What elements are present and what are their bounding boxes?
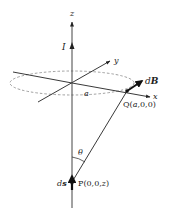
y-axis: [38, 61, 110, 102]
pq-line: [72, 91, 127, 182]
y-axis-label: y: [113, 56, 119, 65]
theta-label: θ: [78, 148, 83, 157]
point-q-label: Q(a,0,0): [123, 100, 156, 109]
theta-arc: [72, 157, 85, 162]
biot-savart-diagram: z I y x a dB Q(a,0,0) θ ds P(0,0,z): [0, 0, 173, 217]
z-axis-label: z: [69, 9, 75, 18]
point-p-dot: [70, 181, 73, 184]
point-p-label: P(0,0,z): [78, 179, 109, 188]
current-arrow-icon: [70, 42, 75, 49]
x-axis-back: [13, 72, 72, 83]
db-label: dB: [145, 76, 159, 86]
radius-label: a: [84, 89, 89, 98]
current-label: I: [61, 42, 66, 52]
point-q-dot: [125, 89, 129, 93]
ds-label: ds: [57, 178, 67, 188]
db-vector: [127, 81, 142, 91]
